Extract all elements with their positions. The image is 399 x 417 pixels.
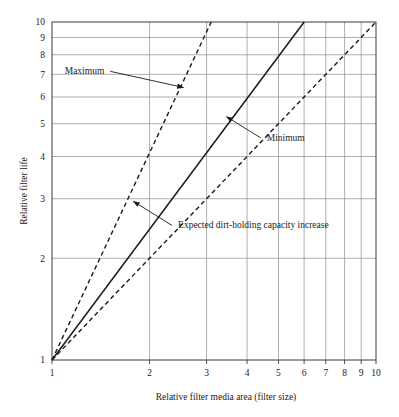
x-tick-label: 5: [276, 368, 281, 378]
x-tick-label: 3: [204, 368, 209, 378]
y-axis-label: Relative filter life: [19, 157, 29, 225]
x-tick-label: 6: [302, 368, 307, 378]
y-tick-label: 9: [40, 33, 45, 43]
annotation-text-2: Expected dirt-holding capacity increase: [178, 220, 329, 230]
x-tick-label: 10: [371, 368, 381, 378]
x-axis-label: Relative filter media area (filter size): [156, 392, 297, 403]
x-tick-label: 4: [245, 368, 250, 378]
chart-background: [0, 0, 399, 417]
x-tick-label: 1: [50, 368, 55, 378]
y-tick-label: 5: [40, 119, 45, 129]
log-log-chart: MaximumMinimumExpected dirt-holding capa…: [0, 0, 399, 417]
chart-figure: MaximumMinimumExpected dirt-holding capa…: [0, 0, 399, 417]
y-tick-label: 8: [40, 50, 45, 60]
y-tick-label: 6: [40, 92, 45, 102]
y-tick-label: 4: [40, 152, 45, 162]
x-tick-label: 8: [342, 368, 347, 378]
x-tick-label: 7: [323, 368, 328, 378]
annotation-text-1: Minimum: [267, 133, 306, 143]
annotation-text-0: Maximum: [65, 66, 105, 76]
y-tick-label: 1: [40, 355, 45, 365]
x-tick-label: 2: [147, 368, 152, 378]
x-tick-label: 9: [359, 368, 364, 378]
y-tick-label: 2: [40, 254, 45, 264]
y-tick-label: 7: [40, 70, 45, 80]
y-tick-label: 10: [36, 17, 46, 27]
y-tick-label: 3: [40, 194, 45, 204]
